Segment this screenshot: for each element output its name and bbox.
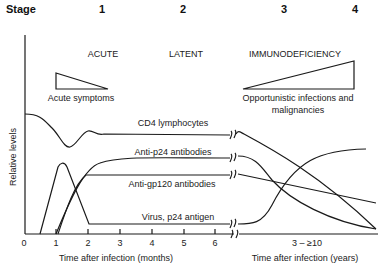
phase-latent: LATENT — [169, 49, 203, 59]
tick-4: 4 — [149, 238, 154, 248]
tick-3: 3 — [117, 238, 122, 248]
stage-1: 1 — [99, 3, 105, 15]
anti-p24-curve — [56, 156, 376, 234]
anti-p24-label: Anti-p24 antibodies — [134, 147, 211, 157]
x-axis-label-months: Time after infection (months) — [59, 253, 173, 263]
cd4-label: CD4 lymphocytes — [138, 118, 209, 128]
virus-label: Virus, p24 antigen — [142, 212, 214, 222]
acute-symptoms-triangle — [56, 73, 108, 89]
anti-gp120-curve — [58, 174, 376, 234]
x-axis-label-years: Time after infection (years) — [252, 253, 359, 263]
y-axis-label: Relative levels — [8, 128, 18, 186]
tick-1: 1 — [53, 238, 58, 248]
opportunistic-triangle — [243, 61, 354, 89]
tick-6: 6 — [212, 238, 217, 248]
phase-immunodeficiency: IMMUNODEFICIENCY — [249, 49, 341, 59]
opportunistic-label-1: Opportunistic infections and — [242, 93, 353, 103]
tick-years: 3 – ≥10 — [292, 238, 322, 248]
opportunistic-label-2: malignancies — [272, 105, 325, 115]
stage-2: 2 — [180, 3, 186, 15]
stage-3: 3 — [281, 3, 287, 15]
tick-2: 2 — [85, 238, 90, 248]
axis-break — [231, 230, 238, 238]
anti-gp120-label: Anti-gp120 antibodies — [128, 179, 215, 189]
stage-4: 4 — [352, 3, 358, 15]
diagram-canvas — [0, 0, 392, 273]
acute-symptoms-label: Acute symptoms — [48, 93, 115, 103]
tick-5: 5 — [181, 238, 186, 248]
phase-acute: ACUTE — [88, 49, 119, 59]
stage-title: Stage — [6, 3, 36, 15]
tick-0: 0 — [21, 238, 26, 248]
